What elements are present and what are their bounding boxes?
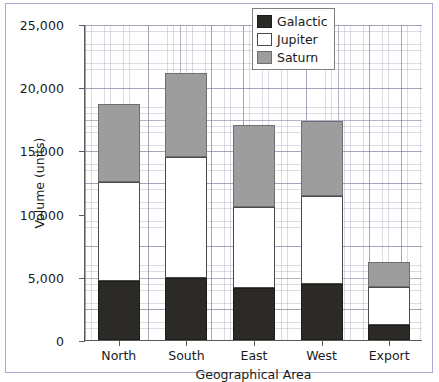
y-axis-tick-mark (79, 88, 85, 89)
y-axis-tick-label: 20,000 (20, 81, 64, 96)
y-axis-tick-mark (79, 151, 85, 152)
bar-segment-north-galactic (98, 281, 140, 340)
y-axis-tick-label: 15,000 (20, 144, 64, 159)
legend-swatch-saturn-icon (257, 51, 272, 64)
y-axis-tick-label: 10,000 (20, 207, 64, 222)
x-axis-tick-mark (119, 340, 120, 346)
x-axis-tick-mark (322, 340, 323, 346)
legend-label: Jupiter (277, 33, 318, 46)
chart-legend: GalacticJupiterSaturn (252, 8, 335, 70)
bar-segment-east-jupiter (233, 207, 275, 288)
bar-stack-east (233, 24, 275, 340)
x-axis-title: Geographical Area (196, 367, 312, 382)
y-axis-tick-mark (79, 278, 85, 279)
bar-segment-south-saturn (165, 73, 207, 156)
bar-segment-north-jupiter (98, 182, 140, 281)
bar-segment-north-saturn (98, 104, 140, 182)
x-axis-tick-label-east: East (241, 348, 268, 363)
bar-stack-export (368, 24, 410, 340)
legend-label: Galactic (277, 15, 328, 28)
x-axis-tick-label-west: West (306, 348, 337, 363)
y-axis-tick-mark (79, 215, 85, 216)
x-axis-tick-label-south: South (168, 348, 204, 363)
y-axis-tick-mark (79, 341, 85, 342)
bar-segment-export-saturn (368, 262, 410, 287)
bar-segment-east-galactic (233, 288, 275, 340)
bar-segment-south-galactic (165, 278, 207, 340)
y-axis-tick-label: 5,000 (28, 270, 64, 285)
bar-segment-west-galactic (301, 284, 343, 340)
x-axis-tick-mark (254, 340, 255, 346)
legend-swatch-galactic-icon (257, 15, 272, 28)
y-axis-tick-mark (79, 25, 85, 26)
x-axis-tick-mark (389, 340, 390, 346)
plot-area: Volume (units)NorthSouthEastWestExportGe… (84, 25, 422, 341)
bar-segment-export-jupiter (368, 287, 410, 325)
x-axis-tick-mark (186, 340, 187, 346)
legend-item-jupiter[interactable]: Jupiter (257, 31, 328, 47)
bar-stack-south (165, 24, 207, 340)
bar-segment-export-galactic (368, 325, 410, 340)
x-axis-tick-label-north: North (101, 348, 136, 363)
legend-swatch-jupiter-icon (257, 33, 272, 46)
legend-item-saturn[interactable]: Saturn (257, 49, 328, 65)
bar-segment-south-jupiter (165, 157, 207, 278)
bar-stack-north (98, 24, 140, 340)
y-axis-tick-label: 0 (56, 334, 64, 349)
legend-item-galactic[interactable]: Galactic (257, 13, 328, 29)
x-axis-tick-label-export: Export (369, 348, 410, 363)
legend-label: Saturn (277, 51, 318, 64)
y-axis-tick-label: 25,000 (20, 18, 64, 33)
bar-segment-west-saturn (301, 121, 343, 196)
bar-segment-west-jupiter (301, 196, 343, 284)
bar-segment-east-saturn (233, 125, 275, 207)
bar-stack-west (301, 24, 343, 340)
chart-figure: Volume (units)NorthSouthEastWestExportGe… (5, 3, 433, 373)
